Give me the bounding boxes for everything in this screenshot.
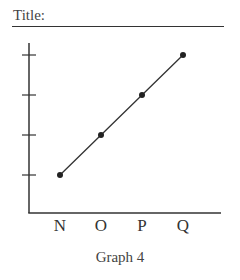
x-tick-label-Q: Q (177, 216, 189, 235)
chart-caption: Graph 4 (96, 249, 145, 265)
x-tick-label-O: O (95, 216, 107, 235)
axes (28, 43, 221, 213)
data-point-P (139, 92, 145, 98)
series-line-layer (60, 55, 183, 175)
data-point-O (98, 132, 104, 138)
data-point-Q (180, 52, 186, 58)
series-line (60, 55, 183, 175)
chart: NOPQ Graph 4 (0, 0, 240, 280)
x-tick-label-P: P (137, 216, 146, 235)
data-point-N (57, 172, 63, 178)
x-tick-label-N: N (54, 216, 66, 235)
x-tick-labels: NOPQ (54, 216, 189, 235)
